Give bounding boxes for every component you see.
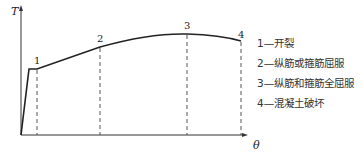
- torque-curve: [21, 34, 241, 135]
- legend-item-full-yield: 3—纵筋和箍筋全屈服: [257, 73, 354, 93]
- point-label-2: 2: [97, 33, 103, 44]
- legend: 1—开裂 2—纵筋或箍筋屈服 3—纵筋和箍筋全屈服 4—混凝土破坏: [257, 33, 354, 113]
- x-axis-arrow-icon: [242, 133, 248, 137]
- legend-item-rebar-or-stirrup-yield: 2—纵筋或箍筋屈服: [257, 53, 354, 73]
- legend-item-cracking: 1—开裂: [257, 33, 354, 53]
- y-axis-label: T: [11, 5, 20, 18]
- x-axis-label: θ: [253, 139, 260, 152]
- point-label-3: 3: [184, 20, 190, 31]
- point-label-4: 4: [238, 29, 244, 40]
- y-axis-arrow-icon: [19, 5, 23, 11]
- point-label-1: 1: [34, 55, 40, 66]
- legend-item-concrete-failure: 4—混凝土破坏: [257, 93, 354, 113]
- point-guides: [37, 35, 241, 135]
